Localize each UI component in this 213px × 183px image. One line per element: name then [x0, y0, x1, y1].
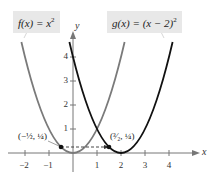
- y-tick-label: 1: [58, 123, 68, 133]
- x-tick-label: 1: [95, 160, 100, 170]
- x-tick-label: 4: [167, 160, 172, 170]
- y-axis-label: y: [75, 20, 79, 31]
- point-left: [59, 145, 64, 150]
- legend-g-exponent: 2: [173, 16, 177, 24]
- x-tick-label: 3: [143, 160, 148, 170]
- legend-g: g(x) = (x − 2)2: [107, 11, 182, 33]
- x-tick-label: −2: [19, 160, 29, 170]
- point-right: [107, 145, 112, 150]
- y-tick-label: 3: [58, 75, 68, 85]
- point-right-label: (³⁄₂, ¼): [110, 131, 135, 141]
- x-axis-arrow-icon: [192, 150, 200, 156]
- x-tick-label: −1: [43, 160, 53, 170]
- y-tick-label: 4: [58, 51, 68, 61]
- x-axis-label: x: [202, 146, 206, 157]
- y-axis-arrow-icon: [70, 31, 76, 39]
- legend-g-text: g(x) = (x − 2): [112, 17, 173, 29]
- legend-f-text: f(x) = x: [18, 17, 51, 29]
- x-tick-label: 2: [119, 160, 124, 170]
- legend-f: f(x) = x2: [13, 11, 60, 33]
- legend-f-exponent: 2: [51, 16, 55, 24]
- point-left-label: (−½, ¼): [18, 131, 47, 141]
- y-tick-label: 2: [58, 99, 68, 109]
